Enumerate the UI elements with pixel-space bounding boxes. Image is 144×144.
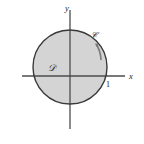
y-axis-label: y bbox=[64, 3, 69, 13]
figure-container: y x 1 𝒟 𝒞 bbox=[0, 0, 144, 144]
x-axis-label: x bbox=[128, 71, 133, 81]
x-axis-tick-label-1: 1 bbox=[106, 80, 110, 89]
curve-label-c: 𝒞 bbox=[91, 30, 100, 40]
figure-svg: y x 1 𝒟 𝒞 bbox=[0, 0, 144, 144]
